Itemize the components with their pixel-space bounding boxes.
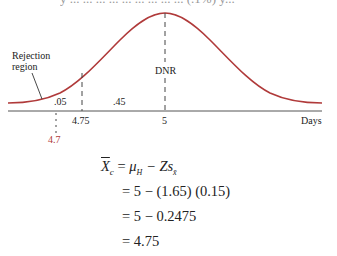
rejection-pointer bbox=[32, 73, 42, 99]
rejection-label-line1: Rejection bbox=[12, 50, 50, 61]
area-middle-label: .45 bbox=[113, 96, 126, 107]
x-axis-label: Days bbox=[301, 115, 322, 126]
s-sub: x̄ bbox=[173, 168, 177, 177]
area-left-label: .05 bbox=[54, 96, 67, 107]
dnr-label: DNR bbox=[155, 65, 176, 76]
equation-line-3: = 5 − 0.2475 bbox=[122, 208, 196, 225]
zs-term: − Zs bbox=[142, 158, 173, 174]
rejection-label-line2: region bbox=[12, 61, 38, 72]
mu: μ bbox=[129, 158, 136, 174]
x-sub: c bbox=[110, 167, 114, 177]
tick-label-4-7: 4.7 bbox=[48, 134, 61, 145]
tick-label-4-75: 4.75 bbox=[72, 115, 90, 126]
equation-line-4: = 4.75 bbox=[122, 233, 159, 250]
equation-line-2: = 5 − (1.65) (0.15) bbox=[122, 183, 230, 200]
equals: = bbox=[117, 158, 125, 174]
x-bar: X bbox=[101, 158, 110, 174]
tick-label-5: 5 bbox=[162, 115, 167, 126]
equation-line-1: Xc = μH − Zsx̄ bbox=[101, 158, 177, 177]
